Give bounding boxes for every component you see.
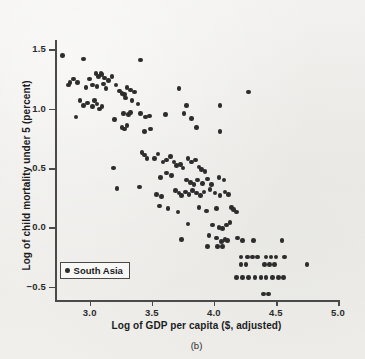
data-point xyxy=(208,187,213,192)
data-point xyxy=(246,90,251,95)
data-point xyxy=(226,192,231,197)
data-point xyxy=(305,262,310,267)
data-point xyxy=(197,205,202,210)
data-point xyxy=(104,86,109,91)
data-point xyxy=(95,102,100,107)
data-point xyxy=(125,123,130,128)
x-tick xyxy=(90,300,92,306)
data-point xyxy=(114,83,119,88)
data-point xyxy=(266,292,271,297)
data-point xyxy=(106,78,111,83)
data-point xyxy=(84,85,89,90)
data-point xyxy=(239,255,244,260)
data-point xyxy=(218,103,223,108)
data-point xyxy=(132,90,137,95)
x-axis-title: Log of GDP per capita ($, adjusted) xyxy=(55,320,338,331)
data-point xyxy=(100,104,105,109)
data-point xyxy=(245,255,250,260)
x-tick-label: 3.0 xyxy=(70,307,110,318)
data-point xyxy=(90,104,95,109)
x-tick xyxy=(214,300,216,306)
data-point xyxy=(147,114,152,119)
x-tick-label: 4.5 xyxy=(256,307,296,318)
data-point xyxy=(261,292,266,297)
data-point xyxy=(112,117,117,122)
legend: South Asia xyxy=(60,262,130,279)
data-point xyxy=(205,177,210,182)
data-point xyxy=(225,238,230,243)
data-point xyxy=(264,255,269,260)
data-point xyxy=(264,275,269,280)
data-point xyxy=(184,103,189,108)
data-point xyxy=(222,178,227,183)
data-point xyxy=(81,57,86,62)
data-point xyxy=(270,275,275,280)
data-point xyxy=(78,98,83,103)
data-point xyxy=(198,193,203,198)
y-axis-line xyxy=(55,40,57,301)
data-point xyxy=(111,166,116,171)
data-point xyxy=(220,244,225,249)
data-point xyxy=(203,169,208,174)
data-point xyxy=(186,222,191,227)
data-point xyxy=(163,112,168,117)
x-tick-label: 4.0 xyxy=(194,307,234,318)
data-point xyxy=(214,206,219,211)
data-point xyxy=(156,152,161,157)
data-point xyxy=(182,111,187,116)
data-point xyxy=(110,74,115,79)
data-point xyxy=(130,98,135,103)
data-point xyxy=(75,80,80,85)
data-point xyxy=(157,204,162,209)
data-point xyxy=(228,220,233,225)
data-point xyxy=(267,262,272,267)
y-axis-title: Log of child mortality under 5 (percent) xyxy=(21,51,32,301)
data-point xyxy=(246,275,251,280)
x-axis-line xyxy=(55,300,338,302)
data-point xyxy=(177,86,182,91)
y-tick xyxy=(49,49,55,51)
data-point xyxy=(200,181,205,186)
data-point xyxy=(87,77,92,82)
legend-marker-icon xyxy=(65,268,70,273)
x-tick xyxy=(276,300,278,306)
data-point xyxy=(192,182,197,187)
x-tick-label: 3.5 xyxy=(132,307,172,318)
data-point xyxy=(115,186,120,191)
data-point xyxy=(169,173,174,178)
data-point xyxy=(195,178,200,183)
data-point xyxy=(272,262,277,267)
scatter-plot-figure: 1.51.00.50.0−0.5 3.03.54.04.55.0 Log of … xyxy=(0,0,365,359)
x-tick xyxy=(338,300,340,306)
data-point xyxy=(255,255,260,260)
data-point xyxy=(281,275,286,280)
data-point xyxy=(142,129,147,134)
data-point xyxy=(274,255,279,260)
data-point xyxy=(210,223,215,228)
data-point xyxy=(282,255,287,260)
y-tick xyxy=(49,227,55,229)
data-point xyxy=(214,236,219,241)
data-point xyxy=(276,275,281,280)
data-point xyxy=(85,101,90,106)
data-point xyxy=(240,275,245,280)
data-point xyxy=(262,262,267,267)
data-point xyxy=(60,53,65,58)
data-point xyxy=(235,236,240,241)
data-point xyxy=(239,262,244,267)
data-point xyxy=(253,275,258,280)
data-point xyxy=(215,244,220,249)
data-point xyxy=(138,111,143,116)
data-point xyxy=(74,115,79,120)
data-point xyxy=(138,58,143,63)
data-point xyxy=(158,175,163,180)
x-tick xyxy=(152,300,154,306)
data-point xyxy=(220,226,225,231)
data-point xyxy=(95,84,100,89)
y-tick xyxy=(49,168,55,170)
data-point xyxy=(123,96,128,101)
data-point xyxy=(193,158,198,163)
data-point xyxy=(137,185,142,190)
data-point xyxy=(240,238,245,243)
data-point xyxy=(152,156,157,161)
